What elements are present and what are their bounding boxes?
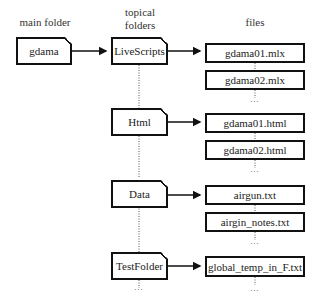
topical-folders-header: topical folders: [112, 6, 168, 32]
folder-html: Html: [111, 108, 168, 136]
file-gdama01-html: gdama01.html: [205, 113, 305, 133]
file-gdama02-html: gdama02.html: [205, 140, 305, 160]
topical-folders-header-line2: folders: [112, 19, 168, 32]
file-airgin-notes-txt: airgin_notes.txt: [205, 212, 305, 232]
main-folder-header: main folder: [10, 16, 80, 29]
topical-folders-header-line1: topical: [112, 6, 168, 19]
folder-testfolder: TestFolder: [111, 252, 168, 280]
main-folder-gdama: gdama: [16, 37, 72, 65]
file-gdama02-mlx: gdama02.mlx: [205, 70, 305, 90]
more-data-ellipsis: …: [250, 236, 259, 246]
file-global-temp-in-f-txt: global_temp_in_F.txt: [205, 256, 305, 277]
files-header: files: [225, 16, 285, 29]
more-livescripts-ellipsis: …: [250, 94, 259, 104]
file-gdama01-mlx: gdama01.mlx: [205, 43, 305, 63]
folder-livescripts: LiveScripts: [111, 37, 168, 65]
more-testfolder-ellipsis: …: [250, 283, 259, 293]
file-airgun-txt: airgun.txt: [205, 185, 305, 205]
more-html-ellipsis: …: [250, 164, 259, 174]
folder-data: Data: [111, 180, 168, 208]
more-folders-ellipsis: …: [134, 282, 143, 292]
